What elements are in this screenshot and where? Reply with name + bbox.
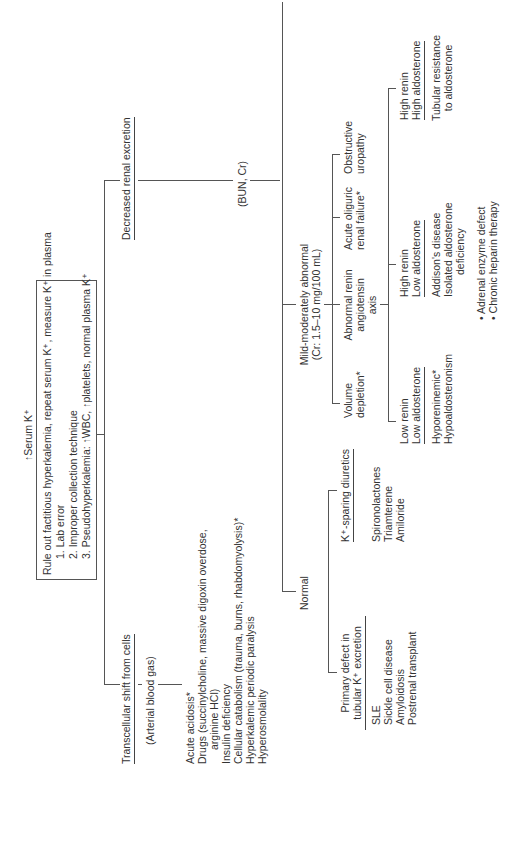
high-low-subcauses: • Adrenal enzyme defect • Chronic hepari…: [475, 201, 499, 320]
connector: [282, 2, 283, 592]
connector: [158, 684, 182, 685]
k-sparing-label: K⁺-sparing diuretics: [339, 449, 354, 542]
label-line: Abnormal renin: [342, 265, 354, 345]
connector: [104, 684, 120, 685]
cause: Addison's disease: [430, 202, 442, 297]
connector: [104, 180, 120, 181]
label-line: axis: [366, 265, 378, 345]
connector: [104, 180, 105, 685]
cause: Cellular catabolism (trauma, burns, rhab…: [232, 518, 244, 764]
cause: Acute acidosis*: [184, 518, 196, 764]
high-high-causes: Tubular resistance to aldosterone: [430, 28, 454, 128]
connector: [332, 403, 340, 404]
cause: Triamterene: [382, 467, 394, 542]
label-line: Primary defect in: [339, 616, 351, 730]
connector: [332, 217, 340, 218]
primary-defect-causes: SLE Sickle cell disease Amyloidosis Post…: [370, 632, 418, 725]
mild-label: Mild-moderately abnormal (Cr: 1.5–10 mg/…: [298, 237, 322, 372]
transcellular-label: Transcellular shift from cells: [120, 634, 135, 764]
connector: [328, 491, 329, 673]
label-line: depletion*: [354, 371, 366, 418]
label-line: Acute oliguric: [342, 187, 354, 250]
normal-label: Normal: [298, 576, 310, 610]
label-line: tubular K⁺ excretion: [351, 616, 363, 730]
rule-out-item: 2. Improper collection technique: [67, 410, 79, 559]
cause: Tubular resistance: [430, 28, 442, 128]
obstructive-uropathy: Obstructive uropathy: [342, 121, 366, 174]
label-line: Mild-moderately abnormal: [298, 237, 310, 372]
acute-oliguric-renal-failure: Acute oliguric renal failure*: [342, 187, 366, 250]
label-line: (Cr: 1.5–10 mg/100 mL): [310, 237, 322, 372]
renal-test: (BUN, Cr): [236, 161, 248, 207]
rule-out-item: 1. Lab error: [54, 505, 66, 559]
cause: Amiloride: [394, 467, 406, 542]
connector: [96, 434, 104, 435]
cause: Hyperosmolality: [256, 518, 268, 764]
label-line: Volume: [342, 371, 354, 418]
label-line: Low aldosterone: [410, 220, 422, 297]
connector: [380, 304, 388, 305]
high-low-causes: Addison's disease Isolated aldosterone d…: [430, 202, 466, 297]
cause: to aldosterone: [442, 28, 454, 128]
transcellular-test: (Arterial blood gas): [144, 656, 156, 745]
diagram-title: ↑Serum K⁺: [22, 395, 34, 475]
low-renin-low-aldo: Low renin Low aldosterone: [398, 367, 425, 444]
label-line: Low aldosterone: [410, 367, 422, 444]
label-line: Obstructive: [342, 121, 354, 174]
connector: [332, 304, 340, 305]
cause: Isolated aldosterone: [442, 202, 454, 297]
high-renin-high-aldo: High renin High aldosterone: [398, 41, 425, 120]
connector: [388, 88, 396, 89]
high-renin-low-aldo: High renin Low aldosterone: [398, 220, 425, 297]
low-low-causes: Hyporeninemic* Hypoaldosteronism: [430, 354, 454, 444]
cause: SLE: [370, 632, 382, 725]
label-line: High renin: [398, 41, 410, 120]
connector: [388, 89, 389, 422]
primary-defect-label: Primary defect in tubular K⁺ excretion: [339, 616, 366, 730]
cause: • Adrenal enzyme defect: [475, 201, 487, 320]
cause: Drugs (succinylcholine, massive digoxin …: [196, 518, 208, 764]
volume-depletion: Volume depletion*: [342, 371, 366, 418]
label-line: uropathy: [354, 121, 366, 174]
cause: Hyperkalemic periodic paralysis: [244, 518, 256, 764]
cause: Sickle cell disease: [382, 632, 394, 725]
k-sparing-causes: Spironolactones Triamterene Amiloride: [370, 467, 406, 542]
connector: [388, 264, 396, 265]
label-line: renal failure*: [354, 187, 366, 250]
renal-label: Decreased renal excretion: [120, 117, 135, 240]
connector: [282, 304, 296, 305]
connector: [138, 180, 233, 181]
renin-axis-label: Abnormal renin angiotensin axis: [342, 265, 378, 345]
connector: [328, 490, 337, 491]
label-line: Low renin: [398, 367, 410, 444]
rule-out-heading: Rule out factitious hyperkalemia, repeat…: [41, 232, 53, 575]
hyperkalemia-flowchart: ↑Serum K⁺ Rule out factitious hyperkalem…: [0, 0, 529, 850]
cause: deficiency: [454, 202, 466, 297]
transcellular-causes: Acute acidosis* Drugs (succinylcholine, …: [184, 518, 268, 764]
label-line: High renin: [398, 220, 410, 297]
connector: [324, 304, 332, 305]
cause: Postrenal transplant: [406, 632, 418, 725]
cause: Amyloidosis: [394, 632, 406, 725]
cause: • Chronic heparin therapy: [487, 201, 499, 320]
rule-out-box: Rule out factitious hyperkalemia, repeat…: [36, 280, 97, 580]
connector: [328, 672, 337, 673]
connector: [332, 155, 333, 404]
cause: Hyporeninemic*: [430, 354, 442, 444]
connector: [250, 180, 280, 181]
cause: Hypoaldosteronism: [442, 354, 454, 444]
rule-out-item: 3. Pseudohyperkalemia: ↑WBC, ↑platelets,…: [80, 273, 92, 559]
cause: Insulin deficiency: [220, 518, 232, 764]
connector: [332, 154, 340, 155]
label-line: angiotensin: [354, 265, 366, 345]
connector: [282, 591, 296, 592]
connector: [388, 421, 396, 422]
cause: Spironolactones: [370, 467, 382, 542]
connector: [138, 684, 142, 685]
cause: arginine HCl): [208, 518, 220, 764]
label-line: High aldosterone: [410, 41, 422, 120]
